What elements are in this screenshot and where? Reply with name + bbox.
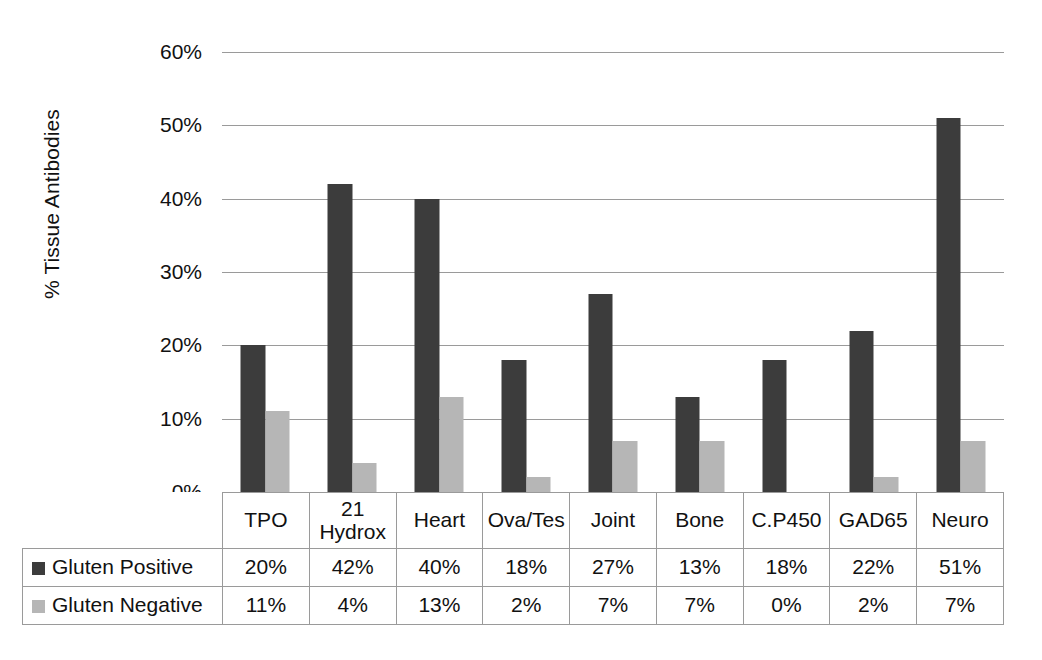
table-cell: 42% (309, 549, 396, 587)
table-row: Gluten Positive20%42%40%18%27%13%18%22%5… (23, 549, 1004, 587)
table-column-header: C.P450 (743, 493, 830, 549)
legend-entry: Gluten Positive (23, 549, 223, 587)
table-cell: 7% (656, 587, 743, 625)
bar-gluten-positive (849, 331, 874, 492)
table-cell: 51% (917, 549, 1004, 587)
table-cell: 20% (223, 549, 310, 587)
plot-region: % Tissue Antibodies 0%10%20%30%40%50%60% (0, 0, 1042, 500)
bar-gluten-negative (439, 397, 464, 492)
bar-gluten-negative (874, 477, 899, 492)
table-column-header: 21Hydrox (309, 493, 396, 549)
bar-gluten-negative (700, 441, 725, 492)
table-cell: 0% (743, 587, 830, 625)
table-cell: 2% (483, 587, 570, 625)
y-tick-label: 20% (140, 334, 202, 355)
bar-gluten-positive (328, 184, 353, 492)
table-row: Gluten Negative11%4%13%2%7%7%0%2%7% (23, 587, 1004, 625)
y-axis-title: % Tissue Antibodies (40, 74, 64, 334)
bar-gluten-negative (613, 441, 638, 492)
table-cell: 7% (917, 587, 1004, 625)
y-tick-label: 60% (140, 41, 202, 62)
table-cell: 18% (743, 549, 830, 587)
table-cell: 7% (570, 587, 657, 625)
bar-group (656, 52, 743, 492)
table-cell: 18% (483, 549, 570, 587)
table-header-row: TPO21HydroxHeartOva/TesJointBoneC.P450GA… (23, 493, 1004, 549)
table-cell: 11% (223, 587, 310, 625)
y-tick-label: 10% (140, 408, 202, 429)
bar-gluten-positive (675, 397, 700, 492)
bar-group (396, 52, 483, 492)
bars-plot-area (222, 52, 1004, 492)
legend-swatch-icon (32, 600, 45, 613)
bar-gluten-negative (265, 411, 290, 492)
bar-gluten-positive (502, 360, 527, 492)
legend-entry: Gluten Negative (23, 587, 223, 625)
bar-gluten-negative (352, 463, 377, 492)
table-cell: 13% (396, 587, 483, 625)
y-tick-label: 30% (140, 261, 202, 282)
table-cell: 2% (830, 587, 917, 625)
table-corner-cell (23, 493, 223, 549)
table-column-header: GAD65 (830, 493, 917, 549)
legend-label: Gluten Negative (52, 593, 203, 616)
bar-group (222, 52, 309, 492)
table-cell: 13% (656, 549, 743, 587)
bar-group (570, 52, 657, 492)
bar-gluten-positive (241, 345, 266, 492)
table-column-header: Bone (656, 493, 743, 549)
bar-group (309, 52, 396, 492)
table-cell: 40% (396, 549, 483, 587)
bar-group (743, 52, 830, 492)
bar-gluten-negative (526, 477, 551, 492)
table-column-header: TPO (223, 493, 310, 549)
table-column-header: Neuro (917, 493, 1004, 549)
y-tick-label: 40% (140, 188, 202, 209)
bar-gluten-positive (936, 118, 961, 492)
bar-group (830, 52, 917, 492)
data-table: TPO21HydroxHeartOva/TesJointBoneC.P450GA… (22, 492, 1004, 625)
legend-label: Gluten Positive (52, 555, 193, 578)
y-tick-label: 50% (140, 114, 202, 135)
bar-gluten-positive (588, 294, 613, 492)
table-cell: 4% (309, 587, 396, 625)
legend-swatch-icon (32, 562, 45, 575)
table-column-header: Ova/Tes (483, 493, 570, 549)
table-cell: 27% (570, 549, 657, 587)
bar-gluten-negative (961, 441, 986, 492)
table-column-header: Joint (570, 493, 657, 549)
table-cell: 22% (830, 549, 917, 587)
chart-figure: % Tissue Antibodies 0%10%20%30%40%50%60%… (0, 0, 1042, 660)
bar-gluten-positive (415, 199, 440, 492)
bar-gluten-positive (762, 360, 787, 492)
table-column-header: Heart (396, 493, 483, 549)
bar-group (917, 52, 1004, 492)
bar-group (483, 52, 570, 492)
